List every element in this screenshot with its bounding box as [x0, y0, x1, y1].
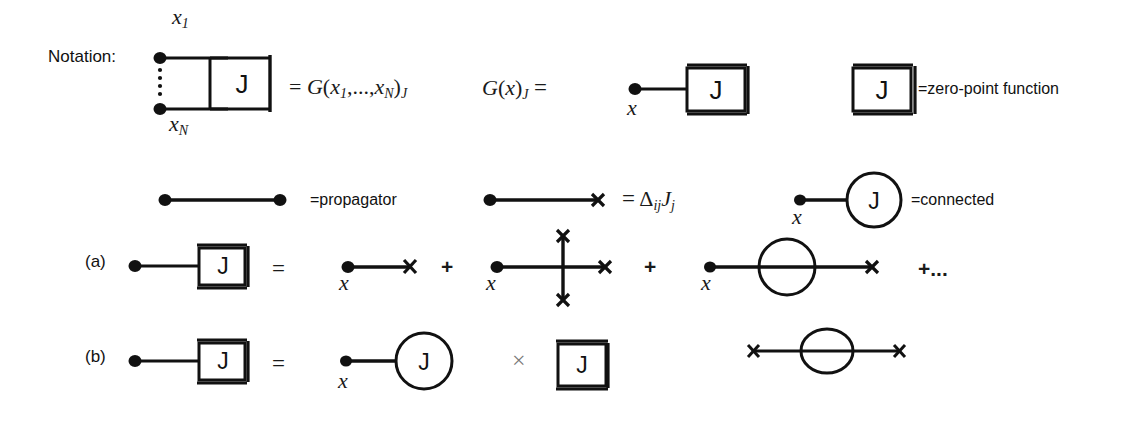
row-a-term3-diagram: [700, 238, 930, 318]
source-equation: = ΔijJj: [622, 187, 675, 213]
row-a-plus-2: +: [644, 256, 656, 277]
row-b-zeropoint-box-symbol: J: [576, 352, 588, 378]
onepoint-box-symbol: J: [710, 75, 723, 105]
row-a-equals: =: [272, 257, 285, 280]
zeropoint-equals-label: =zero-point function: [918, 81, 1059, 97]
row-b-connected-blob-diagram: J: [336, 330, 516, 410]
npoint-ellipsis-dot: [158, 68, 162, 72]
source-equals: =: [622, 186, 635, 211]
onepoint-point-label: x: [627, 97, 637, 119]
npoint-box-symbol: J: [236, 69, 249, 99]
row-b-connected-dot: [340, 356, 352, 367]
source-symbol: J: [661, 186, 671, 211]
connected-equals-label: =connected: [911, 192, 994, 208]
connected-point-label: x: [792, 206, 802, 228]
row-b-connected-circle-symbol: J: [418, 349, 430, 375]
npoint-top-vertex-dot: [154, 52, 167, 64]
propagator-equals-label: =propagator: [310, 192, 397, 208]
npoint-function-diagram: J: [150, 45, 330, 165]
row-a-term2-diagram: [485, 228, 635, 338]
row-a-tag: (a): [85, 253, 106, 270]
onepoint-vertex-dot: [629, 83, 642, 95]
notation-label: Notation:: [48, 48, 116, 65]
onepoint-equals: =: [534, 75, 547, 100]
npoint-equation: = G(x1,...,xN)J: [289, 76, 407, 101]
npoint-equals: =: [289, 74, 301, 99]
onepoint-function-diagram: J: [625, 60, 755, 140]
row-b-cross-loop-cross-diagram: [738, 325, 968, 385]
row-a-lhs-box-symbol: J: [217, 253, 229, 279]
row-a-term3-point-label: x: [701, 272, 711, 294]
propagator-right-dot: [274, 194, 287, 206]
npoint-result-args: (x1,...,xN): [323, 74, 401, 99]
npoint-top-point-label: x1: [172, 6, 189, 30]
row-b-zeropoint-diagram: J: [550, 335, 660, 405]
row-b-lhs-diagram: J: [125, 335, 255, 405]
source-symbol-sub: j: [671, 198, 675, 213]
source-left-dot: [484, 194, 497, 206]
row-b-equals: =: [272, 352, 285, 375]
onepoint-lhs: G(x)J =: [482, 76, 547, 102]
row-b-lhs-box-symbol: J: [217, 348, 229, 374]
row-a-lhs-dot: [129, 260, 142, 272]
onepoint-sub: J: [522, 87, 528, 102]
row-b-multiply-symbol: ×: [512, 348, 526, 372]
row-a-lhs-diagram: J: [125, 240, 255, 310]
row-b-connected-point-label: x: [338, 370, 348, 392]
row-a-term2-point-label: x: [486, 272, 496, 294]
npoint-ellipsis-dot: [158, 92, 162, 96]
zeropoint-box-symbol: J: [876, 75, 889, 105]
onepoint-fn: G: [482, 75, 498, 100]
row-b-tag: (b): [85, 348, 106, 365]
row-a-term1-point-label: x: [339, 272, 349, 294]
npoint-ellipsis-dot: [158, 84, 162, 88]
row-a-plus-1: +: [441, 256, 453, 277]
npoint-result-sub: J: [401, 86, 407, 101]
npoint-ellipsis-dot: [158, 76, 162, 80]
propagator-left-dot: [159, 194, 172, 206]
row-b-lhs-dot: [129, 355, 142, 367]
source-delta: Δ: [639, 186, 653, 211]
npoint-bottom-vertex-dot: [154, 103, 167, 115]
npoint-result-fn: G: [307, 74, 323, 99]
row-a-term1-diagram: [338, 248, 458, 288]
feynman-diagram-figure: Notation: x1 xN J = G(x1,...,xN)J G(x)J …: [0, 0, 1135, 438]
connected-circle-symbol: J: [868, 188, 880, 214]
row-a-ellipsis: +...: [918, 258, 948, 279]
